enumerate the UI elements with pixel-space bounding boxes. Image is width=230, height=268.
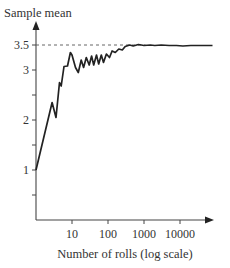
x-tick-label-10: 10: [66, 227, 78, 241]
x-ticks: [72, 220, 180, 224]
sample-mean-series-line: [36, 45, 213, 171]
axes: [33, 21, 215, 224]
y-tick-label-3: 3: [23, 63, 29, 77]
x-tick-label-100: 100: [99, 227, 117, 241]
x-tick-label-10000: 10000: [165, 227, 195, 241]
y-tick-label-3-5: 3.5: [14, 38, 29, 52]
y-axis-arrow-icon: [33, 21, 40, 30]
x-tick-label-1000: 1000: [132, 227, 156, 241]
y-tick-label-2: 2: [23, 113, 29, 127]
y-axis-title: Sample mean: [4, 6, 72, 20]
y-tick-label-1: 1: [23, 163, 29, 177]
sample-mean-chart: Sample mean 1 2 3 3.5 10 100 1000 10000 …: [0, 0, 230, 268]
x-axis-title: Number of rolls (log scale): [57, 247, 192, 261]
y-ticks: [32, 45, 36, 195]
x-axis-arrow-icon: [205, 217, 214, 224]
